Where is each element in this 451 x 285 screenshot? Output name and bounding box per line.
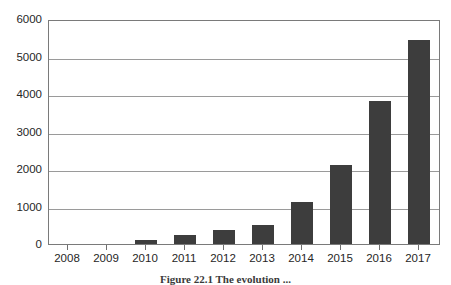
x-tick bbox=[340, 245, 341, 250]
y-tick-label: 6000 bbox=[0, 14, 42, 26]
y-tick-label: 1000 bbox=[0, 202, 42, 214]
x-tick-label-2014: 2014 bbox=[279, 252, 323, 264]
bar-2010 bbox=[135, 240, 157, 244]
x-tick-label-2010: 2010 bbox=[123, 252, 167, 264]
x-tick-label-2011: 2011 bbox=[162, 252, 206, 264]
x-tick-label-2012: 2012 bbox=[201, 252, 245, 264]
x-tick bbox=[223, 245, 224, 250]
y-tick-label: 0 bbox=[0, 239, 42, 251]
x-tick-label-2017: 2017 bbox=[396, 252, 440, 264]
x-tick-label-2008: 2008 bbox=[45, 252, 89, 264]
x-tick-label-2016: 2016 bbox=[357, 252, 401, 264]
plot-area bbox=[48, 20, 440, 245]
bar-2015 bbox=[330, 165, 352, 244]
x-tick bbox=[262, 245, 263, 250]
x-tick-label-2009: 2009 bbox=[84, 252, 128, 264]
bar-2014 bbox=[291, 202, 313, 244]
x-tick bbox=[145, 245, 146, 250]
x-tick bbox=[418, 245, 419, 250]
x-tick bbox=[67, 245, 68, 250]
bar-2016 bbox=[369, 101, 391, 244]
bar-2017 bbox=[408, 40, 430, 244]
x-tick bbox=[301, 245, 302, 250]
bars-layer bbox=[49, 21, 439, 244]
y-tick-label: 5000 bbox=[0, 52, 42, 64]
bar-2011 bbox=[174, 235, 196, 244]
x-tick bbox=[379, 245, 380, 250]
x-tick-label-2013: 2013 bbox=[240, 252, 284, 264]
x-tick bbox=[106, 245, 107, 250]
y-tick-label: 2000 bbox=[0, 164, 42, 176]
figure-caption: Figure 22.1 The evolution ... bbox=[0, 273, 451, 285]
bar-2013 bbox=[252, 225, 274, 244]
bar-2012 bbox=[213, 230, 235, 244]
x-tick bbox=[184, 245, 185, 250]
y-tick-label: 3000 bbox=[0, 127, 42, 139]
y-tick-label: 4000 bbox=[0, 89, 42, 101]
x-tick-label-2015: 2015 bbox=[318, 252, 362, 264]
